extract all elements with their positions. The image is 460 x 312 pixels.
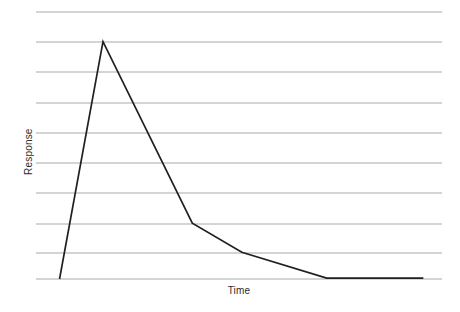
chart-plot-area — [0, 0, 460, 312]
gridlines-group — [36, 12, 442, 279]
x-axis-label: Time — [0, 286, 460, 296]
y-axis-label: Response — [24, 128, 34, 175]
response-line — [60, 42, 424, 279]
data-series-response — [60, 42, 424, 279]
chart-figure: Response Time — [0, 0, 460, 312]
